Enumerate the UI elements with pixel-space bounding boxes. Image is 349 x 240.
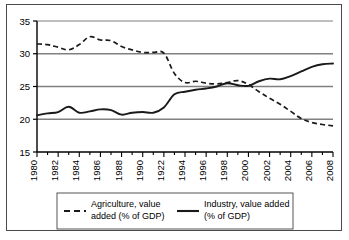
legend-label-agriculture-line2: added (% of GDP) bbox=[91, 211, 165, 221]
x-axis-tick-label: 1988 bbox=[113, 160, 124, 181]
x-axis-tick-label: 2004 bbox=[282, 160, 293, 181]
x-axis-tick-label: 1998 bbox=[218, 160, 229, 181]
legend-label-agriculture-line1: Agriculture, value bbox=[91, 199, 161, 209]
x-axis-tick-label: 1982 bbox=[49, 160, 60, 181]
x-axis-tick-group bbox=[37, 152, 333, 157]
x-axis-tick-label: 1980 bbox=[28, 160, 39, 181]
y-axis-tick-label: 35 bbox=[19, 16, 30, 27]
y-axis-tick-label: 25 bbox=[19, 81, 30, 92]
x-axis-tick-label: 2002 bbox=[261, 160, 272, 181]
y-axis-labels-group: 1520253035 bbox=[19, 16, 30, 158]
x-axis-tick-label: 1984 bbox=[70, 160, 81, 181]
line-chart-svg: 1520253035 19801982198419861988199019221… bbox=[0, 0, 349, 240]
chart-plot-container: 1520253035 19801982198419861988199019221… bbox=[0, 0, 349, 240]
x-axis-tick-label: 1994 bbox=[176, 160, 187, 181]
x-axis-tick-label: 1990 bbox=[134, 160, 145, 181]
legend-label-industry-line2: (% of GDP) bbox=[204, 211, 250, 221]
x-axis-tick-label: 2006 bbox=[303, 160, 314, 181]
series-line-industry bbox=[37, 64, 333, 116]
chart-figure: 1520253035 19801982198419861988199019221… bbox=[0, 0, 349, 240]
y-axis-tick-label: 15 bbox=[19, 147, 30, 158]
x-axis-tick-label: 2000 bbox=[239, 160, 250, 181]
x-axis-tick-label: 1922 bbox=[155, 160, 166, 181]
y-axis-tick-label: 20 bbox=[19, 114, 30, 125]
gridlines-group bbox=[37, 21, 333, 119]
legend-label-industry-line1: Industry, value added bbox=[204, 199, 289, 209]
x-axis-tick-label: 1986 bbox=[91, 160, 102, 181]
x-axis-tick-label: 2008 bbox=[324, 160, 335, 181]
x-axis-labels-group: 1980198219841986198819901922199419961998… bbox=[28, 160, 335, 181]
x-axis-tick-label: 1996 bbox=[197, 160, 208, 181]
y-axis-tick-label: 30 bbox=[19, 48, 30, 59]
